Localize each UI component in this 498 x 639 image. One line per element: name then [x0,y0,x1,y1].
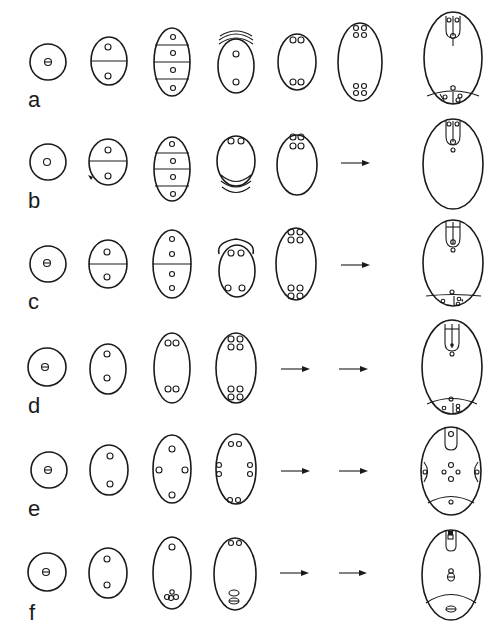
cell-a1 [30,44,66,80]
cell-c5 [276,228,316,300]
row-label-d: d [28,393,40,418]
cell-d2 [90,344,126,394]
cell-a2 [91,37,127,85]
mature-sac-d [422,320,482,414]
mature-sac-b [423,119,483,209]
cell-f3 [153,537,191,609]
row-f: f [28,530,480,625]
cell-b2 [88,139,127,185]
mature-sac-e [421,427,481,515]
cell-a3 [154,28,190,96]
row-e: e [28,427,481,521]
row-a: a [28,12,482,112]
cell-b4 [217,136,255,193]
arrow-d2 [339,366,368,372]
cell-b3 [154,137,190,201]
cell-c3 [153,230,191,298]
mature-sac-f [422,530,480,620]
embryo-sac-diagram: a [0,0,498,639]
arrow-c1 [341,262,370,268]
diagram-canvas: a [0,0,498,639]
cell-f1 [28,553,66,591]
cell-a4 [218,31,254,93]
cell-a5 [278,34,316,90]
cell-d4 [216,333,256,403]
arrow-e2 [339,468,368,474]
cell-d1 [28,348,66,386]
cell-a6 [338,23,382,101]
cell-f4 [214,538,256,610]
row-d: d [28,320,482,418]
row-b: b [28,119,483,213]
row-c: c [28,220,483,314]
row-label-b: b [28,188,40,213]
arrow-f2 [339,570,367,576]
arrow-e1 [281,468,310,474]
cell-c4 [219,239,255,297]
cell-e1 [31,452,67,488]
cell-c1 [30,246,66,282]
cell-e2 [90,445,128,495]
row-label-e: e [28,496,40,521]
row-label-c: c [28,289,39,314]
cell-b1 [30,144,66,180]
cell-f2 [89,548,127,598]
arrow-d1 [281,366,310,372]
cell-d3 [154,333,190,403]
mature-sac-c [423,220,483,306]
row-label-f: f [29,600,36,625]
row-label-a: a [28,87,41,112]
cell-b5 [277,134,317,195]
arrow-b1 [341,160,370,166]
cell-e3 [153,435,191,503]
arrow-f1 [280,570,309,576]
cell-e4 [216,434,256,504]
cell-c2 [89,240,127,288]
mature-sac-a [424,12,482,104]
